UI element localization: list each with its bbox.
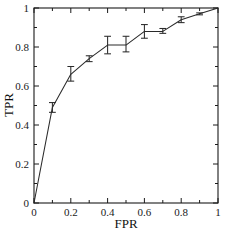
y-tick-labels: 00.20.40.60.81 [15,2,29,209]
x-tick-label: 0.4 [101,206,115,218]
x-tick-label: 0.6 [138,206,152,218]
x-tick-label: 0.2 [64,206,78,218]
y-axis-label: TPR [1,93,16,117]
y-tick-label: 0.4 [15,119,29,131]
x-tick-label: 0 [31,206,37,218]
y-tick-label: 0 [24,197,30,209]
y-tick-label: 0.2 [15,158,29,170]
error-bars [49,13,203,112]
x-axis-label: FPR [114,216,137,231]
y-tick-label: 1 [24,2,30,14]
y-tick-label: 0.6 [15,80,29,92]
x-tick-label: 1 [215,206,221,218]
roc-curve-figure: 00.20.40.60.81 00.20.40.60.81 FPR TPR [0,0,230,234]
y-tick-label: 0.8 [15,41,29,53]
roc-plot-canvas: 00.20.40.60.81 00.20.40.60.81 FPR TPR [0,0,230,234]
error-bar [123,36,130,52]
x-tick-label: 0.8 [174,206,188,218]
